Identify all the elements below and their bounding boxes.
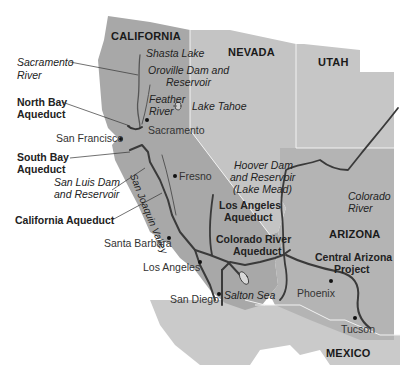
label-hoover-line1: Hoover Dam [234,159,293,171]
city-label-sacramento: Sacramento [148,124,205,136]
label-oroville-line2: Reservoir [166,76,211,88]
city-label-phoenix: Phoenix [297,287,335,299]
label-feather-line2: River [149,105,174,117]
label-la-aqueduct-line1: Los Angeles [219,199,281,211]
label-hoover-line3: (Lake Mead) [233,183,292,195]
label-cr-aqueduct-line1: Colorado River [216,233,291,245]
label-cap-line2: Project [334,263,370,275]
label-san-luis-line1: San Luis Dam [54,176,120,188]
label-hoover-line2: and Reservoir [230,171,295,183]
label-colorado-river-line2: River [348,202,373,214]
label-colorado-river-line1: Colorado [348,190,391,202]
label-feather-line1: Feather [149,93,185,105]
state-label-nevada: NEVADA [228,46,275,58]
label-cr-aqueduct-line2: Aqueduct [233,245,281,257]
state-label-mexico: MEXICO [326,347,371,359]
label-la-aqueduct-line2: Aqueduct [224,211,272,223]
city-label-los-angeles: Los Angeles [143,261,200,273]
label-south-bay-line1: South Bay [17,151,69,163]
state-label-california: CALIFORNIA [111,30,181,42]
city-label-san-diego: San Diego [170,293,219,305]
label-shasta-lake: Shasta Lake [146,47,204,59]
label-south-bay-line2: Aqueduct [17,163,65,175]
state-label-utah: UTAH [318,56,349,68]
label-oroville-line1: Oroville Dam and [148,64,229,76]
label-california-aqueduct: California Aqueduct [15,214,114,226]
city-label-san-francisco: San Francisco [56,132,123,144]
city-label-tucson: Tucson [341,323,375,335]
label-lake-tahoe: Lake Tahoe [192,100,247,112]
label-sacramento-river-line2: River [17,69,42,81]
city-label-fresno: Fresno [179,170,212,182]
state-label-arizona: ARIZONA [329,228,381,240]
label-sacramento-river-line1: Sacramento [17,56,74,68]
label-salton-sea: Salton Sea [224,289,275,301]
label-north-bay-line2: Aqueduct [17,108,65,120]
city-label-santa-barbara: Santa Barbara [104,237,172,249]
label-cap-line1: Central Arizona [315,251,392,263]
label-north-bay-line1: North Bay [17,96,67,108]
label-san-luis-line2: and Reservoir [54,188,119,200]
